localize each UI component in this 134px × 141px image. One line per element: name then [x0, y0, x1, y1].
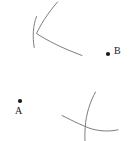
arc-upper-left-near-vertical — [33, 17, 36, 48]
point-label-b: B — [114, 46, 121, 56]
point-label-a: A — [15, 106, 22, 116]
arc-lower-right-sweeping — [62, 116, 118, 131]
point-dot-a — [18, 99, 22, 103]
construction-figure: A B — [0, 0, 134, 141]
figure-svg-layer — [0, 0, 134, 141]
arc-upper-left-sweeping — [37, 2, 83, 56]
arc-lower-right-near-vertical — [85, 92, 96, 141]
point-dot-b — [106, 52, 110, 56]
